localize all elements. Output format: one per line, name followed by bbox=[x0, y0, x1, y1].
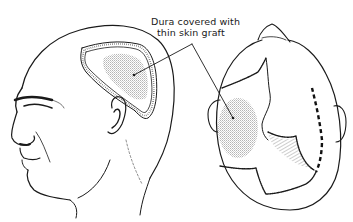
jawline bbox=[78, 160, 110, 198]
leader-line-lateral bbox=[134, 44, 192, 75]
brow-wrinkle bbox=[52, 100, 64, 108]
annotation-line-1: Dura covered with bbox=[151, 16, 240, 27]
incision-lower bbox=[220, 166, 316, 194]
neck-front bbox=[70, 200, 77, 218]
rotated-flap-hatching bbox=[268, 134, 312, 168]
leader-dot-superior bbox=[232, 117, 235, 120]
eyebrow bbox=[15, 97, 52, 100]
ear-inner bbox=[112, 109, 120, 128]
nostril bbox=[20, 144, 30, 145]
leader-line-superior bbox=[192, 44, 233, 118]
ear-outer bbox=[108, 97, 126, 134]
upper-lip bbox=[20, 148, 40, 160]
flap-edge-middle bbox=[262, 58, 270, 140]
nose bbox=[11, 112, 34, 145]
lateral-head-view bbox=[11, 25, 174, 218]
eyelid bbox=[24, 104, 52, 108]
chin-jaw bbox=[27, 170, 70, 200]
dura-graft-area-top bbox=[218, 98, 258, 158]
planned-incision-dashed-line bbox=[312, 88, 322, 172]
lower-lip bbox=[22, 160, 28, 170]
incision-upper-left bbox=[222, 58, 266, 88]
dura-graft-area-lateral bbox=[103, 54, 148, 100]
medical-illustration: Dura covered with thin skin graft bbox=[0, 0, 353, 222]
superior-head-view bbox=[208, 24, 346, 210]
neck-back bbox=[140, 178, 150, 215]
skull-outline bbox=[22, 25, 174, 178]
nose-base bbox=[262, 37, 286, 40]
annotation-line-2: thin skin graft bbox=[157, 27, 225, 38]
leader-dot-lateral bbox=[133, 74, 136, 77]
neck-contour bbox=[126, 140, 142, 184]
nasolabial-fold bbox=[36, 132, 50, 162]
